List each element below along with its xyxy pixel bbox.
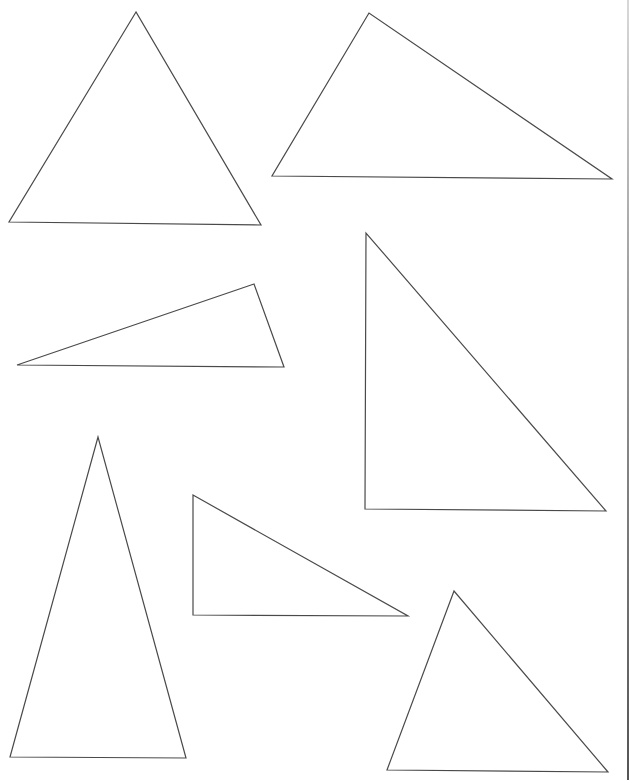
- triangle-6: [193, 495, 408, 616]
- page-right-edge: [627, 0, 629, 780]
- triangle-worksheet: [0, 0, 630, 780]
- triangle-7: [387, 591, 608, 772]
- triangle-3: [17, 284, 284, 367]
- triangle-2: [272, 13, 612, 179]
- triangle-5: [10, 437, 186, 758]
- triangle-4: [365, 233, 606, 511]
- triangle-1: [9, 12, 261, 225]
